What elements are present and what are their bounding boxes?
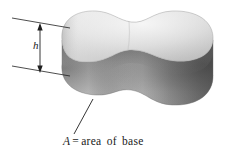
equals-sign: =	[71, 135, 81, 147]
arrowhead-up	[37, 23, 42, 31]
height-label: h	[33, 39, 39, 51]
arrowhead-down	[37, 66, 42, 74]
height-dimension	[12, 18, 70, 76]
base-callout-leader-line	[74, 99, 93, 134]
figure-canvas: h A=area of base	[0, 0, 240, 154]
base-area-text: area of base	[81, 135, 144, 147]
geometry-figure	[0, 0, 240, 154]
base-area-caption: A=area of base	[63, 135, 144, 147]
